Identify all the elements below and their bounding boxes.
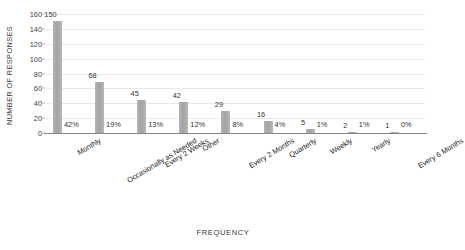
y-axis-tick-mark — [42, 58, 45, 59]
x-axis-category-labels: MonthlyOccasionally as NeededEvery 2 Wee… — [46, 136, 425, 226]
bar-group[interactable]: 164% — [257, 14, 299, 133]
x-axis-title: FREQUENCY — [0, 228, 446, 237]
bar-group[interactable]: 10% — [383, 14, 425, 133]
bar-group[interactable]: 51% — [299, 14, 341, 133]
bar-value-label: 2 — [332, 121, 359, 130]
y-axis-tick-label: 80 — [12, 69, 42, 78]
bar[interactable] — [179, 102, 188, 133]
x-axis-category-label: Every 6 Months — [416, 136, 465, 170]
bar-value-label: 16 — [248, 110, 275, 119]
y-axis-tick-mark — [42, 88, 45, 89]
y-axis-tick-label: 100 — [12, 54, 42, 63]
bar-percent-label: 42% — [64, 120, 90, 129]
bar-percent-label: 0% — [401, 120, 427, 129]
y-axis-tick-mark — [42, 118, 45, 119]
x-axis-line — [44, 133, 427, 134]
x-axis-category-label: Weekly — [328, 136, 353, 156]
bar-value-label: 1 — [374, 121, 401, 130]
bar[interactable] — [137, 100, 146, 133]
bar[interactable] — [53, 21, 62, 133]
bar-percent-label: 12% — [190, 120, 216, 129]
x-axis-category-label: Occasionally as Needed — [125, 136, 198, 185]
bar-group[interactable]: 4212% — [172, 14, 214, 133]
y-axis-tick-mark — [42, 73, 45, 74]
y-axis-ticks: 020406080100120140160 — [10, 14, 42, 133]
y-axis-tick-label: 120 — [12, 39, 42, 48]
bar[interactable] — [95, 82, 104, 133]
bar-group[interactable]: 21% — [341, 14, 383, 133]
y-axis-tick-label: 60 — [12, 84, 42, 93]
x-axis-category-label: Yearly — [370, 136, 392, 154]
bar-value-label: 150 — [37, 10, 64, 19]
bar-group[interactable]: 4513% — [130, 14, 172, 133]
bar-percent-label: 13% — [148, 120, 174, 129]
bar-value-label: 29 — [205, 100, 232, 109]
y-axis-tick-label: 20 — [12, 114, 42, 123]
bar-value-label: 45 — [121, 89, 148, 98]
y-axis-tick-mark — [42, 43, 45, 44]
bar-value-label: 5 — [290, 118, 317, 127]
y-axis-tick-mark — [42, 103, 45, 104]
plot-area: 15042%6819%4513%4212%298%164%51%21%10% — [46, 14, 425, 133]
y-axis-tick-mark — [42, 28, 45, 29]
bar-value-label: 68 — [79, 71, 106, 80]
bar[interactable] — [221, 111, 230, 133]
bar-percent-label: 8% — [232, 120, 258, 129]
bar-value-label: 42 — [163, 91, 190, 100]
y-axis-tick-label: 40 — [12, 99, 42, 108]
bar-percent-label: 19% — [106, 120, 132, 129]
bar-group[interactable]: 6819% — [88, 14, 130, 133]
bar[interactable] — [264, 121, 273, 133]
y-axis-tick-label: 140 — [12, 24, 42, 33]
x-axis-category-label: Monthly — [76, 136, 103, 157]
y-axis-tick-label: 0 — [12, 129, 42, 138]
